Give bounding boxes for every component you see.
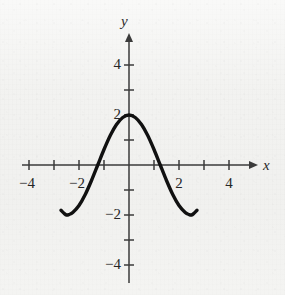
- y-axis-label: y: [121, 14, 128, 29]
- x-tick-label-4: 4: [218, 176, 240, 191]
- x-axis-label: x: [263, 158, 270, 173]
- y-tick-label-4: 4: [97, 57, 121, 72]
- x-tick-label-neg4: −4: [16, 176, 38, 191]
- y-tick-label-neg4: −4: [97, 257, 121, 272]
- y-tick-label-neg2: −2: [97, 207, 121, 222]
- axis-group: [22, 33, 258, 283]
- x-tick-label-2: 2: [168, 176, 190, 191]
- y-tick-label-2: 2: [97, 107, 121, 122]
- x-tick-label-neg2: −2: [66, 176, 88, 191]
- figure-container: y x −4−22442−2−4: [0, 0, 285, 295]
- x-axis-arrow-icon: [249, 161, 258, 169]
- coordinate-plot: [0, 0, 285, 295]
- y-axis-arrow-icon: [125, 33, 133, 42]
